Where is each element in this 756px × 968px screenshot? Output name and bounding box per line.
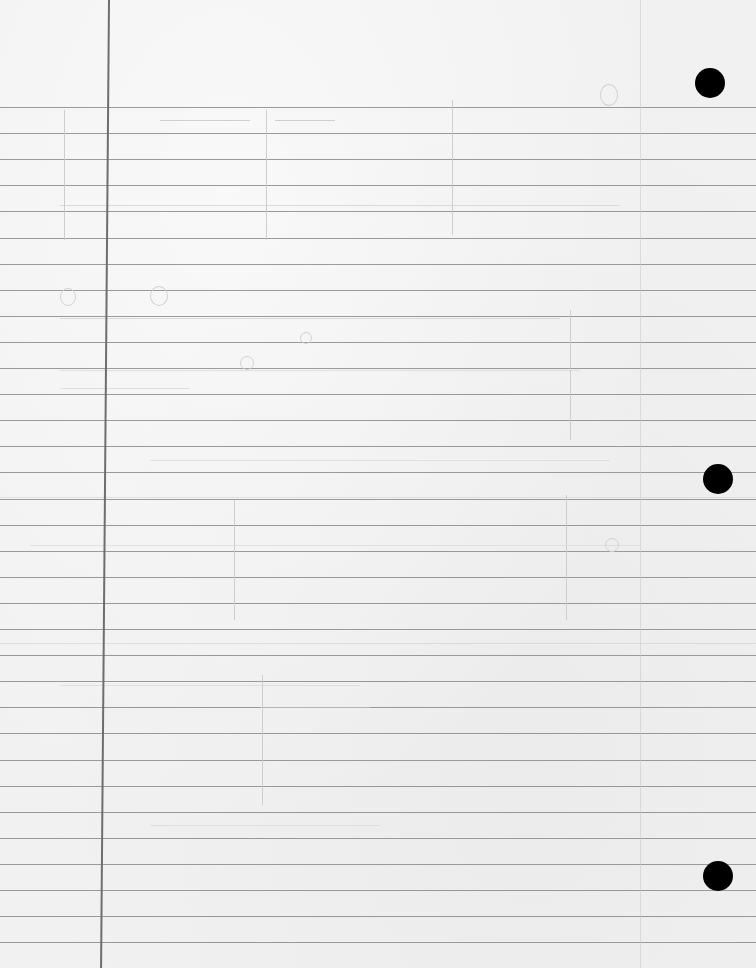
bleed-through-line: [262, 675, 263, 805]
ruled-line: [0, 159, 756, 160]
bleed-through-mark: [60, 388, 190, 389]
bleed-through-mark: [30, 545, 640, 546]
ruled-line: [0, 838, 756, 839]
ruled-line: [0, 185, 756, 186]
ruled-line: [0, 655, 756, 656]
bleed-through-mark: [0, 643, 756, 644]
ruled-line: [0, 760, 756, 761]
binder-hole-top: [695, 68, 725, 98]
ruled-line: [0, 942, 756, 943]
ruled-line: [0, 316, 756, 317]
ruled-line: [0, 786, 756, 787]
ruled-line: [0, 290, 756, 291]
ruled-line: [0, 916, 756, 917]
ruled-line: [0, 107, 756, 108]
bleed-through-mark: [60, 205, 620, 206]
bleed-through-glyph: [60, 288, 76, 306]
notebook-sheet: [0, 0, 756, 968]
ruled-line: [0, 707, 756, 708]
ruled-line: [0, 472, 756, 473]
ruled-line: [0, 499, 756, 500]
ruled-line: [0, 394, 756, 395]
ruled-line: [0, 525, 756, 526]
ruled-line: [0, 812, 756, 813]
bleed-through-line: [64, 110, 65, 240]
ruled-line: [0, 681, 756, 682]
bleed-through-line: [566, 495, 567, 620]
ruled-line: [0, 420, 756, 421]
bleed-through-glyph: [600, 84, 618, 106]
ruled-line: [0, 551, 756, 552]
ruled-line: [0, 864, 756, 865]
bleed-through-mark: [260, 707, 370, 708]
bleed-through-glyph: [605, 538, 619, 552]
bleed-through-line: [234, 500, 235, 620]
bleed-through-mark: [275, 120, 335, 121]
ruled-line: [0, 368, 756, 369]
binder-hole-bottom: [703, 861, 733, 891]
bleed-through-line: [640, 0, 641, 968]
bleed-through-mark: [60, 318, 560, 319]
bleed-through-line: [570, 310, 571, 440]
bleed-through-mark: [60, 685, 360, 686]
ruled-line: [0, 629, 756, 630]
binder-hole-middle: [703, 464, 733, 494]
ruled-line: [0, 603, 756, 604]
bleed-through-mark: [150, 460, 610, 461]
ruled-line: [0, 446, 756, 447]
ruled-line: [0, 211, 756, 212]
bleed-through-mark: [150, 825, 380, 826]
ruled-line: [0, 342, 756, 343]
margin-line: [100, 0, 110, 968]
ruled-line: [0, 890, 756, 891]
ruled-line: [0, 577, 756, 578]
ruled-line: [0, 264, 756, 265]
bleed-through-glyph: [240, 356, 254, 370]
bleed-through-line: [452, 100, 453, 235]
ruled-line: [0, 238, 756, 239]
ruled-line: [0, 133, 756, 134]
bleed-through-glyph: [150, 286, 168, 306]
bleed-through-mark: [0, 497, 756, 498]
bleed-through-mark: [160, 120, 250, 121]
bleed-through-line: [266, 110, 267, 240]
ruled-line: [0, 733, 756, 734]
bleed-through-mark: [60, 370, 580, 371]
bleed-through-glyph: [300, 332, 312, 344]
